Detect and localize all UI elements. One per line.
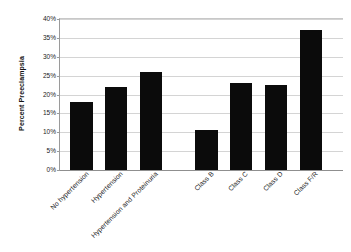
y-axis-tick-label: 15% <box>30 109 56 116</box>
bar <box>70 102 92 170</box>
y-axis-tick-label: 25% <box>30 71 56 78</box>
x-axis-tick-label: Class D <box>262 170 284 192</box>
x-axis-tick-labels: No hypertensionHypertensionHypertension … <box>59 170 351 252</box>
y-axis-tick-label: 0% <box>30 166 56 173</box>
x-axis-tick-label: No hypertension <box>48 170 89 211</box>
y-axis-tick-label: 40% <box>30 15 56 22</box>
bar <box>230 83 252 170</box>
y-axis-tick-label: 30% <box>30 52 56 59</box>
x-axis-tick-label: Class B <box>192 170 214 192</box>
y-axis-tick-label: 10% <box>30 128 56 135</box>
y-axis-tick-label: 20% <box>30 90 56 97</box>
bar <box>265 85 287 170</box>
bar <box>300 30 322 170</box>
y-axis-tick-label: 5% <box>30 147 56 154</box>
x-axis-tick-label: Class F/R <box>292 170 319 197</box>
x-axis-tick-label: Hypertension <box>90 170 124 204</box>
bar <box>140 72 162 170</box>
bar <box>105 87 127 170</box>
bar <box>195 130 217 170</box>
y-axis-title: Percent Preeclampsia <box>14 18 28 168</box>
x-axis-tick-label: Class C <box>227 170 249 192</box>
bar-chart: Percent Preeclampsia 0%5%10%15%20%25%30%… <box>0 0 351 252</box>
plot-area <box>59 18 343 170</box>
y-axis-title-text: Percent Preeclampsia <box>18 56 25 131</box>
x-axis-tick-label: Hypertension and Proteinuria <box>90 170 159 239</box>
y-axis-tick-label: 35% <box>30 33 56 40</box>
bars-layer <box>60 19 343 170</box>
y-axis-tick-labels: 0%5%10%15%20%25%30%35%40% <box>30 12 56 175</box>
